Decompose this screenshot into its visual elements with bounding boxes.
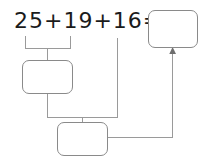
answer-box-partial-sum[interactable] [22,60,73,94]
answer-box-second-sum[interactable] [57,122,108,156]
arrowhead-icon [169,47,176,54]
answer-box-total[interactable] [148,10,198,48]
addition-strategy-worksheet: 25+19+16= [0,0,208,163]
